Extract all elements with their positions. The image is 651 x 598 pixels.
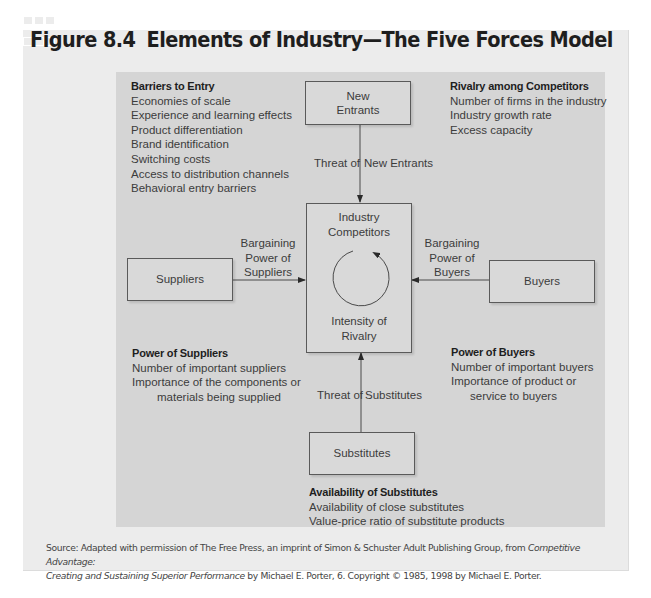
list-item: Experience and learning effects	[131, 108, 292, 123]
list-item: Brand identification	[131, 137, 292, 152]
substitutes-box: Substitutes	[309, 432, 415, 475]
node-label: Substitutes	[334, 446, 391, 461]
barriers-heading: Barriers to Entry	[131, 79, 292, 94]
threat-new-entrants-left: Threat of	[314, 156, 360, 171]
threat-new-entrants-right: New Entrants	[364, 156, 433, 171]
source-prefix: Source: Adapted with permission of The F…	[46, 542, 528, 553]
barriers-to-entry-list: Barriers to Entry Economies of scale Exp…	[131, 79, 292, 196]
list-item: Number of firms in the industry	[450, 94, 607, 109]
list-item: materials being supplied	[132, 390, 301, 405]
substitutes-heading: Availability of Substitutes	[309, 485, 504, 500]
list-item: Industry growth rate	[450, 108, 607, 123]
label-line: Bargaining	[236, 236, 300, 251]
list-item: Access to distribution channels	[131, 167, 292, 182]
node-label: Suppliers	[156, 272, 204, 287]
list-item: Number of important suppliers	[132, 361, 301, 376]
label-line: Buyers	[420, 265, 484, 280]
suppliers-box: Suppliers	[127, 258, 233, 301]
bargaining-power-suppliers-label: Bargaining Power of Suppliers	[236, 236, 300, 280]
label-line: Suppliers	[236, 265, 300, 280]
list-item: Importance of product or	[451, 374, 594, 389]
industry-competitors-box: Industry Competitors Intensity of Rivalr…	[306, 203, 412, 353]
node-label: Buyers	[524, 274, 560, 289]
list-item: Number of important buyers	[451, 360, 594, 375]
node-label: Rivalry	[307, 329, 411, 344]
label-line: Power of	[236, 251, 300, 266]
list-item: Economies of scale	[131, 94, 292, 109]
buyers-box: Buyers	[489, 260, 595, 303]
power-of-suppliers-list: Power of Suppliers Number of important s…	[132, 346, 301, 404]
label-line: Bargaining	[420, 236, 484, 251]
list-item: Switching costs	[131, 152, 292, 167]
list-item: Value-price ratio of substitute products	[309, 514, 504, 529]
list-item: Availability of close substitutes	[309, 500, 504, 515]
list-item: Excess capacity	[450, 123, 607, 138]
source-note: Source: Adapted with permission of The F…	[46, 541, 621, 583]
list-item: service to buyers	[451, 389, 594, 404]
threat-substitutes-left: Threat of	[317, 388, 363, 403]
label-line: Power of	[420, 251, 484, 266]
rivalry-list: Rivalry among Competitors Number of firm…	[450, 79, 607, 137]
availability-of-substitutes-list: Availability of Substitutes Availability…	[309, 485, 504, 529]
node-label: Intensity of	[307, 314, 411, 329]
list-item: Importance of the components or	[132, 375, 301, 390]
node-label: Industry	[307, 210, 411, 225]
node-label: Competitors	[307, 225, 411, 240]
node-label: Entrants	[337, 103, 380, 118]
node-label: New	[337, 89, 380, 104]
new-entrants-box: New Entrants	[305, 81, 411, 125]
source-book-subtitle: Creating and Sustaining Superior Perform…	[46, 570, 245, 581]
power-suppliers-heading: Power of Suppliers	[132, 346, 301, 361]
power-of-buyers-list: Power of Buyers Number of important buye…	[451, 345, 594, 403]
bargaining-power-buyers-label: Bargaining Power of Buyers	[420, 236, 484, 280]
source-suffix: by Michael E. Porter, 6. Copyright © 198…	[245, 570, 542, 581]
rivalry-cycle-icon	[307, 241, 413, 311]
list-item: Product differentiation	[131, 123, 292, 138]
rivalry-heading: Rivalry among Competitors	[450, 79, 607, 94]
threat-substitutes-right: Substitutes	[365, 388, 422, 403]
power-buyers-heading: Power of Buyers	[451, 345, 594, 360]
list-item: Behavioral entry barriers	[131, 181, 292, 196]
